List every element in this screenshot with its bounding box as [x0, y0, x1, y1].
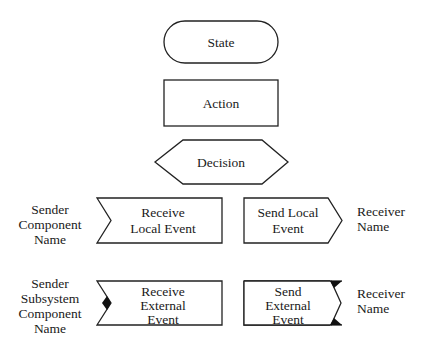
send-local-event-label: Event [272, 221, 304, 236]
annotation-line: Subsystem [21, 291, 80, 306]
send-external-event-label: External [265, 298, 311, 313]
annotation-line: Name [357, 301, 389, 316]
state-node: State [164, 21, 278, 63]
decision-label: Decision [197, 155, 245, 170]
receive-local-event-label: Local Event [130, 221, 196, 236]
sender-local-annotation: Sender Component Name [19, 202, 82, 247]
annotation-line: Name [34, 321, 66, 336]
send-external-event-label: Send [275, 284, 302, 299]
diagram-canvas: State Action Decision Sender Component N… [0, 0, 427, 348]
send-local-event-label: Send Local [257, 205, 318, 220]
receive-external-event-label: Receive [141, 284, 184, 299]
annotation-line: Name [357, 219, 389, 234]
action-node: Action [164, 80, 278, 126]
send-local-event-node: Send Local Event [244, 198, 342, 243]
state-label: State [208, 35, 235, 50]
receive-external-event-node: Receive External Event [97, 281, 222, 327]
send-external-event-label: Event [272, 312, 304, 327]
annotation-line: Receiver [357, 204, 405, 219]
sender-external-annotation: Sender Subsystem Component Name [19, 276, 82, 336]
annotation-line: Sender [31, 202, 69, 217]
receive-external-event-label: Event [147, 312, 179, 327]
action-label: Action [203, 96, 240, 111]
decision-node: Decision [155, 140, 288, 184]
receive-local-event-label: Receive [141, 205, 184, 220]
annotation-line: Component [19, 217, 82, 232]
annotation-line: Name [34, 232, 66, 247]
annotation-line: Sender [31, 276, 69, 291]
send-external-event-node: Send External Event [244, 281, 342, 327]
receiver-local-annotation: Receiver Name [357, 204, 405, 234]
receiver-external-annotation: Receiver Name [357, 286, 405, 316]
annotation-line: Component [19, 306, 82, 321]
receive-local-event-node: Receive Local Event [97, 198, 222, 243]
annotation-line: Receiver [357, 286, 405, 301]
receive-external-event-label: External [140, 298, 186, 313]
